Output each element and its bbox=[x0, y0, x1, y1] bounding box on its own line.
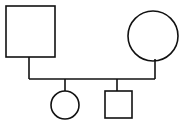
father-square-symbol bbox=[6, 6, 55, 57]
pedigree-diagram bbox=[0, 0, 190, 124]
daughter-circle-symbol bbox=[51, 91, 79, 119]
mother-circle-symbol bbox=[128, 11, 178, 61]
son-square-symbol bbox=[105, 91, 132, 118]
